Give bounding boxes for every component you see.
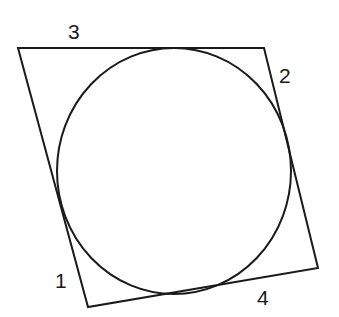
label-side-1: 1	[55, 269, 67, 292]
inscribed-circle	[57, 48, 291, 294]
label-side-4: 4	[257, 286, 269, 309]
label-side-3: 3	[68, 20, 80, 43]
label-side-2: 2	[279, 64, 291, 87]
tangential-quadrilateral-diagram: 3 2 1 4	[0, 0, 339, 317]
